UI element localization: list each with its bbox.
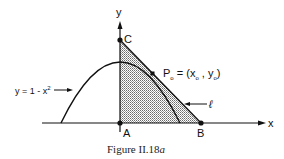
parabola-pointer-arrow-icon — [67, 88, 73, 92]
figure-diagram: y x C A B Po = (xo , yo) y = 1 - x2 ℓ Fi… — [0, 0, 284, 159]
x-axis-arrow-icon — [258, 121, 266, 126]
point-p0-marker — [151, 72, 155, 76]
figure-caption: Figure II.18a — [107, 143, 166, 155]
x-axis-label: x — [268, 117, 274, 129]
point-b-label: B — [197, 127, 204, 139]
p0-coordinates-label: Po = (xo , yo) — [163, 67, 220, 81]
line-l-label: ℓ — [208, 98, 213, 110]
y-axis-arrow-icon — [118, 21, 123, 29]
point-a-label: A — [123, 127, 131, 139]
y-axis-label: y — [116, 6, 122, 18]
parabola-equation-label: y = 1 - x2 — [15, 85, 51, 96]
point-c-label: C — [124, 33, 132, 45]
point-c-marker — [117, 37, 122, 42]
line-l-pointer-arrow-icon — [184, 102, 190, 106]
point-b-marker — [198, 120, 203, 125]
point-a-marker — [117, 120, 122, 125]
